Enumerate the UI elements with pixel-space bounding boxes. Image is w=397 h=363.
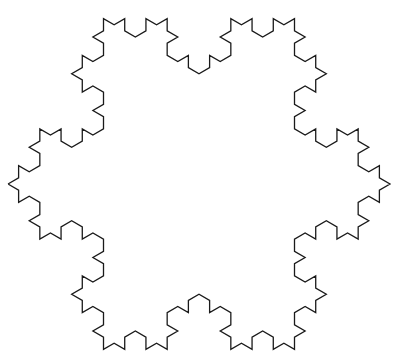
- koch-snowflake-canvas: [0, 0, 397, 363]
- snowflake-outline: [8, 19, 390, 350]
